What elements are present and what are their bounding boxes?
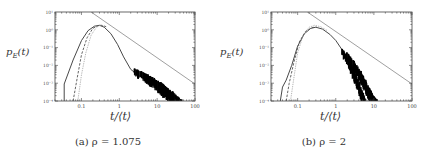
plot-frame (271, 12, 412, 101)
series-dashed (286, 27, 317, 101)
x-tick-label: 1 (334, 103, 337, 109)
series-dashed (73, 25, 106, 101)
y-tick-label: 10⁰ (261, 28, 269, 33)
y-tick-label: 10⁻⁴ (259, 99, 269, 104)
x-tick-label: 0.1 (294, 103, 302, 109)
x-tick-label: 100 (407, 103, 417, 109)
x-tick-label: 100 (190, 103, 200, 109)
x-tick-label: 10 (154, 103, 160, 109)
x-tick-label: 10 (371, 103, 377, 109)
y-tick-label: 10¹ (45, 10, 53, 15)
caption-b: (b) ρ = 2 (216, 136, 432, 147)
series-dotted (291, 25, 328, 101)
y-tick-label: 10⁻² (43, 63, 53, 68)
y-tick-label: 10¹ (261, 10, 269, 15)
y-axis-label: pE(t) (6, 46, 29, 60)
y-axis-label: pE(t) (220, 46, 243, 60)
x-tick-label: 0.1 (77, 103, 85, 109)
y-tick-label: 10⁻⁴ (43, 99, 53, 104)
panel-a: 0.111010010⁻⁴10⁻³10⁻²10⁻¹10⁰10¹ pE(t) t/… (0, 0, 216, 162)
panel-b: 0.111010010⁻⁴10⁻³10⁻²10⁻¹10⁰10¹ pE(t) t/… (216, 0, 432, 162)
y-tick-label: 10⁻¹ (259, 45, 269, 50)
x-axis-label: t/⟨t⟩ (320, 110, 341, 123)
y-tick-label: 10⁰ (45, 28, 53, 33)
plot-area (280, 12, 412, 105)
y-tick-label: 10⁻³ (259, 81, 269, 86)
plot-area (64, 12, 195, 105)
series-dotted (78, 25, 105, 101)
y-tick-label: 10⁻³ (43, 81, 53, 86)
x-axis-label: t/⟨t⟩ (110, 110, 131, 123)
caption-a: (a) ρ = 1.075 (0, 136, 216, 147)
plot-frame (55, 12, 195, 101)
y-tick-label: 10⁻² (259, 63, 269, 68)
y-tick-label: 10⁻¹ (43, 45, 53, 50)
x-tick-label: 1 (118, 103, 121, 109)
